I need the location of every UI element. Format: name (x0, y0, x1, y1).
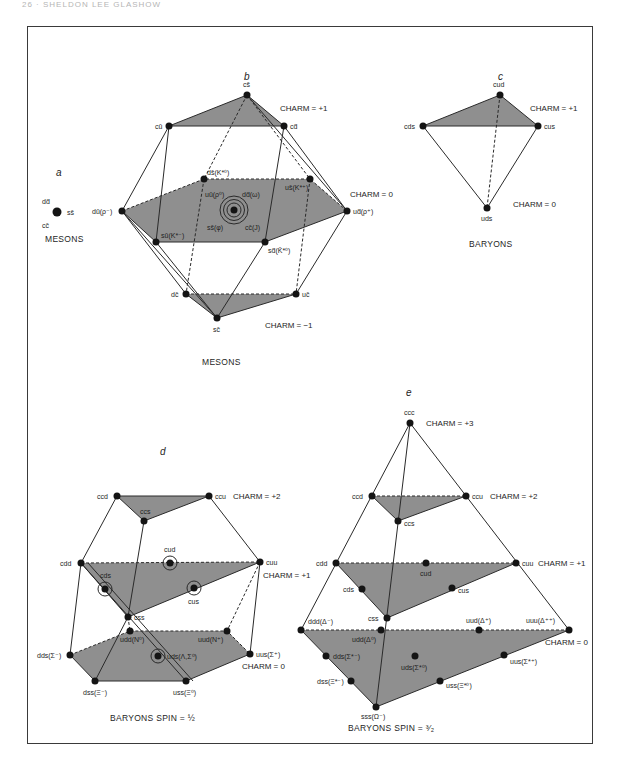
e-node-ccs: ccs (404, 520, 415, 527)
e-charm-plus1: CHARM = +1 (538, 559, 586, 568)
node-dc: dc̄ (171, 291, 179, 298)
node-sd: sd̄(K̄*⁰) (268, 247, 290, 255)
e-node-uus: uus(Σ*⁺) (510, 658, 537, 666)
e-charm-0: CHARM = 0 (545, 638, 588, 647)
node-du: dū(ρ⁻) (92, 208, 112, 216)
e-node-cdd: cdd (316, 560, 327, 567)
e-node-ccd: ccd (352, 493, 363, 500)
e-node-cus: cus (458, 587, 469, 594)
e-node-ccu: ccu (472, 493, 483, 500)
b-charm-0: CHARM = 0 (350, 190, 393, 199)
panel-d: d (37, 446, 311, 723)
d-node-css: css (134, 614, 145, 621)
panel-e-caption: BARYONS SPIN = ³⁄₂ (348, 723, 434, 733)
c-charm-plus1: CHARM = +1 (530, 104, 578, 113)
panel-d-letter: d (160, 446, 166, 457)
label-dd: dd̄ (42, 198, 50, 205)
e-charm-plus3: CHARM = +3 (426, 419, 474, 428)
meson-singlet-node (53, 208, 62, 217)
e-node-uds: uds(Σ*⁰) (401, 664, 427, 672)
center-node (231, 207, 238, 214)
e-node-cds: cds (343, 586, 354, 593)
d-node-ccs: ccs (140, 508, 151, 515)
node-ss: ss̄(φ) (207, 224, 223, 232)
panel-c-caption: BARYONS (469, 239, 513, 249)
d-node-ccd: ccd (97, 493, 108, 500)
node-uu: uū(ρ⁰) (205, 191, 224, 199)
label-ss: ss̄ (67, 209, 75, 216)
node-sc: sc̄ (213, 326, 221, 333)
c-charm-0: CHARM = 0 (513, 200, 556, 209)
panel-e: e (298, 387, 589, 733)
d-node-cdd: cdd (60, 560, 71, 567)
node-cs: cs̄ (243, 81, 251, 88)
e-node-ccc: ccc (404, 409, 415, 416)
e-node-uss: uss(Ξ*⁰) (446, 682, 472, 690)
panel-a-letter: a (56, 167, 62, 178)
node-ds: ds̄(K*⁰) (207, 169, 229, 177)
charm-minus1-face (186, 294, 296, 318)
e-node-ddd: ddd(Δ⁻) (308, 618, 333, 626)
panel-a-caption: MESONS (45, 234, 84, 244)
e-node-uuu: uuu(Δ⁺⁺) (526, 617, 555, 625)
label-cc: cc̄ (42, 222, 50, 229)
d-node-ccu: ccu (215, 493, 226, 500)
d-node-uds: uds(Λ,Σ⁰) (167, 653, 197, 661)
d-charm-plus1: CHARM = +1 (263, 571, 311, 580)
quark-multiplet-figure: a dd̄ ss̄ cc̄ MESONS b (0, 0, 617, 778)
e-node-css: css (368, 615, 379, 622)
panel-b-caption: MESONS (202, 357, 241, 367)
node-cd: cd̄ (290, 123, 298, 130)
d-node-cds: cds (100, 572, 111, 579)
c-node-uds: uds (481, 215, 493, 222)
e-node-udd: udd(Δ⁰) (352, 636, 376, 644)
d-node-uud: uud(N⁺) (198, 636, 223, 644)
node-cu: cū (155, 123, 163, 130)
d-charm-plus2: CHARM = +2 (233, 492, 281, 501)
panel-c: c cud cds cus uds CHARM = +1 CHARM = 0 B… (404, 71, 578, 249)
node-uc: uc̄ (302, 291, 310, 298)
node-su: sū(K*⁻) (161, 232, 184, 240)
node-ud: ud̄(ρ⁺) (353, 208, 373, 216)
c-node-cus: cus (544, 123, 555, 130)
d-node-dss: dss(Ξ⁻) (83, 689, 107, 697)
d-node-cud: cud (164, 546, 175, 553)
e-node-dss: dss(Ξ*⁻) (317, 678, 344, 686)
b-charm-plus1: CHARM = +1 (280, 104, 328, 113)
d-node-dds: dds(Σ⁻) (37, 652, 61, 660)
d-node-udd: udd(N⁰) (120, 636, 144, 644)
e-node-dds: dds(Σ*⁻) (333, 653, 360, 661)
e-node-uud: uud(Δ⁺) (466, 617, 491, 625)
d-node-uss: uss(Ξ⁰) (173, 689, 196, 697)
e-node-cuu: cuu (522, 560, 533, 567)
node-cc: cc̄(J) (245, 224, 260, 232)
d-node-cus: cus (188, 598, 199, 605)
d-charm-0: CHARM = 0 (242, 662, 285, 671)
c-charm-plus1-face (423, 95, 538, 126)
b-charm-minus1: CHARM = −1 (265, 321, 313, 330)
panel-d-caption: BARYONS SPIN = ½ (110, 713, 195, 723)
e-node-sss: sss(Ω⁻) (361, 713, 385, 721)
panel-e-letter: e (406, 387, 412, 398)
e-node-cud: cud (420, 570, 431, 577)
e-charm-plus2: CHARM = +2 (490, 492, 538, 501)
d-node-cuu: cuu (266, 559, 277, 566)
panel-b: b (92, 71, 393, 367)
c-node-cds: cds (404, 123, 415, 130)
panel-a: a dd̄ ss̄ cc̄ MESONS (42, 167, 84, 244)
c-node-cud: cud (493, 81, 504, 88)
node-dd: dd̄(ω) (242, 191, 260, 199)
d-node-uus: uus(Σ⁺) (256, 651, 280, 659)
node-us: us̄(K*⁺) (285, 184, 308, 192)
